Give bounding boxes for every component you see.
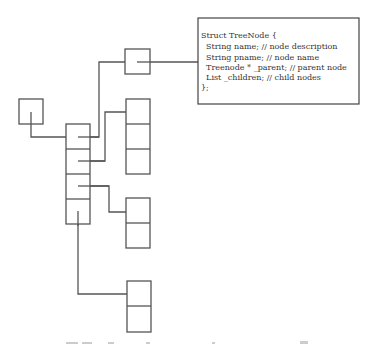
struct-line-2: String name; // node description xyxy=(201,42,337,51)
struct-line-4: Treenode * _parent; // parent node xyxy=(201,63,347,72)
child-group-3-node xyxy=(127,281,151,332)
main-column-node xyxy=(66,124,109,226)
struct-line-1: Struct TreeNode { xyxy=(201,31,277,40)
connectors xyxy=(31,62,198,294)
struct-definition-box: Struct TreeNode { String name; // node d… xyxy=(198,18,359,104)
struct-line-5: List _children; // child nodes xyxy=(201,73,321,82)
top-child-node xyxy=(125,49,150,74)
struct-line-3: String pname; // node name xyxy=(201,53,319,62)
child-group-1-node xyxy=(126,99,150,174)
child-group-2-node xyxy=(126,198,150,248)
tree-structure-diagram: Struct TreeNode { String name; // node d… xyxy=(0,0,373,344)
struct-line-6: }; xyxy=(201,83,209,92)
